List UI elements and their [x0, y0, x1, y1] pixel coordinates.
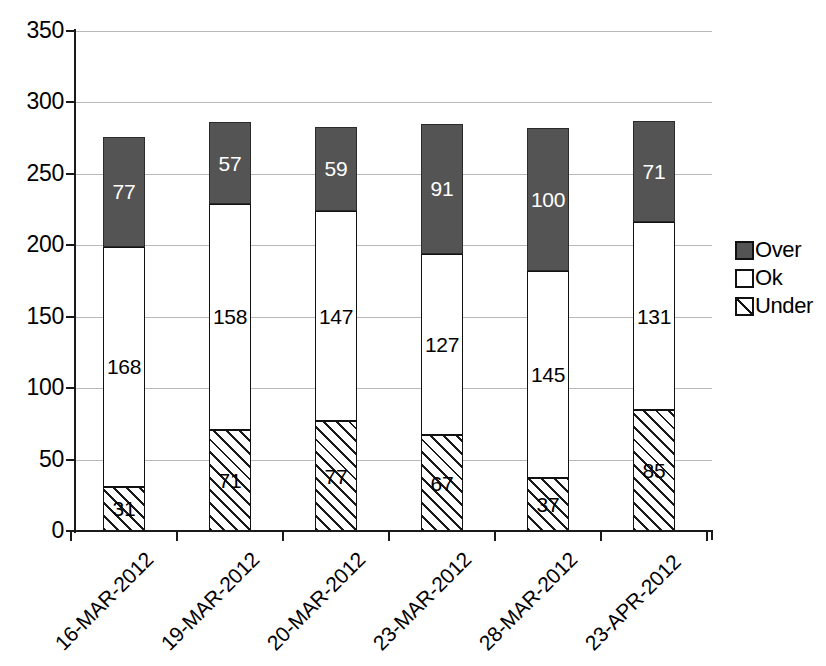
- y-axis-tick-label: 300: [2, 90, 64, 113]
- bar-segment-over[interactable]: 77: [103, 137, 145, 247]
- x-axis-category-label: 20-MAR-2012: [263, 548, 369, 654]
- x-axis-tick: [70, 532, 72, 541]
- bar-segment-under[interactable]: 85: [633, 410, 675, 531]
- bar-segment-ok[interactable]: 145: [527, 271, 569, 478]
- y-axis-tick-label: 350: [2, 19, 64, 42]
- y-axis-tick-label: 150: [2, 305, 64, 328]
- bar-segment-value-label: 127: [425, 334, 459, 355]
- legend-swatch-ok-icon: [735, 269, 754, 288]
- bar-segment-value-label: 168: [107, 356, 141, 377]
- y-axis-tick: [66, 30, 75, 32]
- bar-group[interactable]: 5715871: [209, 122, 251, 531]
- bar-group[interactable]: 10014537: [527, 128, 569, 531]
- x-axis-category-label: 28-MAR-2012: [475, 548, 581, 654]
- x-axis-end-cap: [711, 531, 713, 540]
- bar-segment-value-label: 147: [319, 306, 353, 327]
- gridline: [75, 245, 712, 246]
- bar-segment-value-label: 71: [219, 470, 242, 491]
- gridline: [75, 388, 712, 389]
- bar-segment-value-label: 85: [643, 460, 666, 481]
- bar-group[interactable]: 9112767: [421, 124, 463, 531]
- bar-segment-value-label: 91: [431, 178, 454, 199]
- y-axis-tick-label: 0: [2, 519, 64, 542]
- gridline: [75, 102, 712, 103]
- y-axis-line: [74, 29, 76, 533]
- bar-segment-value-label: 100: [531, 189, 565, 210]
- bar-segment-ok[interactable]: 168: [103, 247, 145, 487]
- bar-segment-under[interactable]: 67: [421, 435, 463, 531]
- y-axis-tick: [66, 173, 75, 175]
- gridline: [75, 317, 712, 318]
- x-axis-tick: [282, 532, 284, 541]
- y-axis-tick-label: 250: [2, 162, 64, 185]
- x-axis-tick: [388, 532, 390, 541]
- bar-group[interactable]: 7113185: [633, 121, 675, 531]
- bar-segment-under[interactable]: 37: [527, 478, 569, 531]
- y-axis-tick: [66, 316, 75, 318]
- bar-segment-over[interactable]: 100: [527, 128, 569, 271]
- bar-group[interactable]: 7716831: [103, 137, 145, 531]
- y-axis-tick-label: 100: [2, 376, 64, 399]
- bar-segment-ok[interactable]: 147: [315, 211, 357, 421]
- x-axis-tick: [176, 532, 178, 541]
- gridline: [75, 460, 712, 461]
- y-axis-tick-label: 200: [2, 233, 64, 256]
- bar-segment-ok[interactable]: 158: [209, 204, 251, 430]
- bar-segment-over[interactable]: 57: [209, 122, 251, 203]
- bar-segment-value-label: 131: [637, 306, 671, 327]
- legend-item-under[interactable]: Under: [735, 292, 826, 320]
- bar-segment-value-label: 77: [113, 181, 136, 202]
- legend-swatch-over-icon: [735, 241, 754, 260]
- x-axis-category-label: 23-APR-2012: [581, 551, 684, 654]
- y-axis-labels: 050100150200250300350: [0, 0, 64, 666]
- bar-segment-value-label: 71: [643, 161, 666, 182]
- gridline: [75, 174, 712, 175]
- legend-item-ok[interactable]: Ok: [735, 264, 826, 292]
- y-axis-tick: [66, 244, 75, 246]
- y-axis-tick-label: 50: [2, 448, 64, 471]
- bar-segment-value-label: 67: [431, 473, 454, 494]
- bar-segment-under[interactable]: 77: [315, 421, 357, 531]
- bar-segment-value-label: 59: [325, 158, 348, 179]
- bar-segment-value-label: 145: [531, 364, 565, 385]
- bar-segment-over[interactable]: 71: [633, 121, 675, 222]
- x-axis-category-label: 16-MAR-2012: [51, 548, 157, 654]
- x-axis-category-label: 19-MAR-2012: [157, 548, 263, 654]
- x-axis-tick: [600, 532, 602, 541]
- x-axis-category-label: 23-MAR-2012: [369, 548, 475, 654]
- legend-swatch-under-icon: [735, 297, 754, 316]
- x-axis-line: [74, 530, 713, 532]
- legend-item-over[interactable]: Over: [735, 236, 826, 264]
- bar-segment-ok[interactable]: 131: [633, 222, 675, 409]
- y-axis-tick: [66, 101, 75, 103]
- y-axis-tick: [66, 459, 75, 461]
- bar-segment-ok[interactable]: 127: [421, 254, 463, 435]
- bar-segment-over[interactable]: 91: [421, 124, 463, 254]
- bar-segment-over[interactable]: 59: [315, 127, 357, 211]
- y-axis-tick: [66, 387, 75, 389]
- legend-label: Ok: [755, 267, 782, 289]
- chart-legend: OverOkUnder: [735, 236, 826, 320]
- plot-area: 7716831571587159147779112767100145377113…: [75, 31, 712, 531]
- legend-label: Under: [755, 295, 813, 317]
- legend-label: Over: [755, 239, 801, 261]
- bar-segment-value-label: 57: [219, 153, 242, 174]
- bar-segment-value-label: 77: [325, 466, 348, 487]
- bar-segment-under[interactable]: 71: [209, 430, 251, 531]
- bar-group[interactable]: 5914777: [315, 127, 357, 531]
- gridline: [75, 31, 712, 32]
- bar-segment-under[interactable]: 31: [103, 487, 145, 531]
- stacked-bar-chart: 050100150200250300350 771683157158715914…: [0, 0, 826, 666]
- x-axis-tick: [494, 532, 496, 541]
- bar-segment-value-label: 37: [537, 494, 560, 515]
- x-axis-tick: [706, 532, 708, 541]
- bar-segment-value-label: 31: [113, 498, 136, 519]
- bar-segment-value-label: 158: [213, 306, 247, 327]
